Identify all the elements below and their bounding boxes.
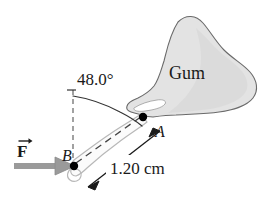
gum-label: Gum	[169, 64, 205, 82]
angle-label: 48.0°	[77, 71, 114, 88]
point-marker-a	[139, 113, 147, 121]
distance-label: 1.20 cm	[110, 160, 165, 177]
force-vector-label: F	[17, 143, 27, 160]
force-vector-symbol: F	[17, 143, 27, 160]
gum-stretch-figure: 48.0° Gum A B 1.20 cm F	[0, 0, 264, 207]
point-a-label: A	[155, 124, 165, 140]
point-b-label: B	[62, 148, 72, 164]
